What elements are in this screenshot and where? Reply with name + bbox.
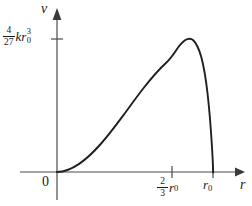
superscript-three: 3 <box>27 27 31 36</box>
x-axis-name-label: r <box>240 178 245 192</box>
y-axis-tick-label: 4 27 k r 3 0 <box>3 26 31 48</box>
x-axis-tick-label-root: r0 <box>203 178 212 193</box>
y-axis-name-label: v <box>41 2 47 16</box>
fraction-denominator: 27 <box>3 37 15 47</box>
curve-path <box>57 39 213 173</box>
x-axis-arrowhead <box>235 168 245 177</box>
y-axis-arrowhead <box>53 8 62 20</box>
subscript-zero: 0 <box>174 184 178 193</box>
figure-container: v r 0 4 27 k r 3 0 2 3 r 0 r0 <box>0 0 252 206</box>
fraction-numerator: 4 <box>5 26 12 36</box>
variable-r: r <box>21 30 26 43</box>
subscript-zero: 0 <box>27 36 31 45</box>
fraction-two-thirds: 2 3 <box>157 177 168 199</box>
origin-label: 0 <box>42 175 49 189</box>
subscript-zero: 0 <box>208 183 212 193</box>
r-sub-sup-group: 3 0 <box>27 27 31 45</box>
fraction-numerator: 2 <box>159 177 166 187</box>
fraction-denominator: 3 <box>159 188 166 198</box>
fraction-four-twentysevenths: 4 27 <box>3 26 15 48</box>
x-axis-tick-label-peak: 2 3 r 0 <box>157 177 178 199</box>
plot-canvas <box>0 0 252 206</box>
